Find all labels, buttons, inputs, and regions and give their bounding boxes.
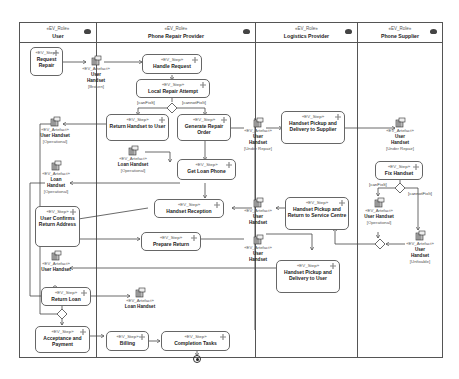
artefact-label: User Handset [248, 214, 268, 226]
step-glyph-icon [214, 202, 220, 208]
artefact-loan-handset-operational-user[interactable]: «EV_Artefact» Loan Handset [Operational] [36, 160, 76, 195]
step-label: Completion Tasks [162, 340, 229, 346]
artefact-icon [253, 197, 264, 208]
step-glyph-icon [80, 329, 86, 335]
artefact-state: [Operational] [34, 139, 76, 145]
artefact-label: User Handset [248, 134, 268, 146]
artefact-user-handset-user-lane[interactable]: «EV_Artefact» User Handset [36, 250, 76, 273]
step-label: User Confirms Return Address [36, 215, 79, 227]
artefact-state: [Under Repair] [380, 146, 420, 152]
artefact-user-handset-operational[interactable]: «EV_Artefact» User Handset [Operational] [34, 116, 76, 145]
artefact-icon [51, 160, 62, 171]
step-handset-pickup-delivery-to-user[interactable]: «EV_Step» Handset Pickup and Delivery to… [276, 260, 340, 293]
artefact-state: [Operational] [112, 168, 154, 174]
artefact-icon [50, 116, 61, 127]
artefact-user-handset-prepare-return[interactable]: «EV_Artefact» User Handset [240, 234, 276, 263]
artefact-label: Loan Handset [46, 177, 66, 189]
step-label: Return Handset to User [107, 123, 168, 129]
step-acceptance-and-payment[interactable]: «EV_Step» Acceptance and Payment [35, 326, 90, 353]
step-glyph-icon [53, 50, 59, 56]
step-glyph-icon [200, 82, 206, 88]
step-billing[interactable]: «EV_Step» Billing [106, 331, 149, 351]
step-label: Fix Handset [376, 170, 422, 176]
artefact-state: [Unfixable] [400, 259, 440, 265]
artefact-user-handset-unfixable[interactable]: «EV_Artefact» User Handset [Unfixable] [400, 230, 440, 265]
artefact-icon [135, 287, 146, 298]
step-label: Handset Pickup and Return to Service Cen… [286, 206, 348, 218]
step-glyph-icon [70, 209, 76, 215]
artefact-user-handset-under-repair-supplier[interactable]: «EV_Artefact» User Handset [Under Repair… [380, 117, 420, 152]
step-glyph-icon [191, 235, 197, 241]
artefact-label: User Handset [248, 251, 268, 263]
artefact-user-handset-broken[interactable]: «EV_Artefact» User Handset [Broken] [78, 55, 114, 90]
step-label: Prepare Return [142, 241, 200, 247]
step-handset-pickup-delivery-to-supplier[interactable]: «EV_Step» Handset Pickup and Delivery to… [281, 111, 345, 144]
step-glyph-icon [159, 117, 165, 123]
step-glyph-icon [220, 334, 226, 340]
artefact-state: [Under Repair] [240, 146, 276, 152]
step-request-repair[interactable]: «EV_Step» Request Repair [30, 47, 63, 76]
step-glyph-icon [221, 117, 227, 123]
step-handset-pickup-return-to-service-centre[interactable]: «EV_Step» Handset Pickup and Return to S… [285, 197, 349, 230]
step-glyph-icon [413, 164, 419, 170]
step-glyph-icon [226, 162, 232, 168]
artefact-icon [128, 145, 139, 156]
artefact-loan-handset-operational-prp[interactable]: «EV_Artefact» Loan Handset [Operational] [112, 145, 154, 174]
step-label: Return Loan [42, 296, 90, 302]
step-label: Acceptance and Payment [36, 335, 89, 347]
artefact-user-handset-under-repair-logistics[interactable]: «EV_Artefact» User Handset [Under Repair… [240, 117, 276, 152]
step-return-loan[interactable]: «EV_Step» Return Loan [41, 287, 91, 306]
step-handset-reception[interactable]: «EV_Step» Handset Reception [154, 199, 224, 218]
artefact-icon [253, 234, 264, 245]
step-glyph-icon [139, 334, 145, 340]
step-label: Request Repair [31, 56, 62, 68]
guard-cannot-fix: [cannotFixIt] [182, 100, 206, 105]
artefact-label: User Handset [410, 247, 430, 259]
step-completion-tasks[interactable]: «EV_Step» Completion Tasks [161, 331, 230, 351]
step-glyph-icon [81, 290, 87, 296]
step-glyph-icon [330, 263, 336, 269]
artefact-icon [91, 55, 102, 66]
step-prepare-return[interactable]: «EV_Step» Prepare Return [141, 232, 201, 251]
step-glyph-icon [335, 114, 341, 120]
guard-cannot-fix-supplier: [cannotFixIt] [408, 191, 432, 196]
step-generate-repair-order[interactable]: «EV_Step» Generate Repair Order [177, 114, 231, 141]
artefact-state: [Broken] [78, 84, 114, 90]
artefact-user-handset-reception[interactable]: «EV_Artefact» User Handset [240, 197, 276, 226]
final-node [193, 355, 201, 363]
step-label: Local Repair Attempt [137, 88, 209, 94]
step-label: Handset Reception [155, 208, 223, 214]
guard-can-fix: [canFixIt] [137, 100, 155, 105]
step-label: Handset Pickup and Delivery to User [277, 269, 339, 281]
step-label: Handset Pickup and Delivery to Supplier [282, 120, 344, 132]
step-label: Billing [107, 340, 148, 346]
artefact-icon [253, 117, 264, 128]
artefact-state: [Operational] [358, 220, 400, 226]
step-user-confirms-return-address[interactable]: «EV_Step» User Confirms Return Address [35, 206, 80, 247]
artefact-icon [374, 197, 385, 208]
artefact-state: [Operational] [36, 189, 76, 195]
artefact-label: User Handset [36, 267, 76, 273]
step-label: Generate Repair Order [178, 123, 230, 135]
artefact-label: Loan Handset [120, 304, 160, 310]
artefact-icon [415, 230, 426, 241]
step-label: Get Loan Phone [178, 168, 235, 174]
step-handle-request[interactable]: «EV_Step» Handle Request [142, 54, 202, 74]
step-local-repair-attempt[interactable]: «EV_Step» Local Repair Attempt [136, 79, 210, 98]
artefact-label: User Handset [86, 72, 106, 84]
step-fix-handset[interactable]: «EV_Step» Fix Handset [375, 161, 423, 180]
step-return-handset-to-user[interactable]: «EV_Step» Return Handset to User [106, 114, 169, 141]
artefact-icon [51, 250, 62, 261]
guard-can-fix-supplier: [canFixIt] [369, 182, 387, 187]
artefact-icon [395, 117, 406, 128]
step-label: Handle Request [143, 63, 201, 69]
artefact-user-handset-operational-supplier[interactable]: «EV_Artefact» User Handset [Operational] [358, 197, 400, 226]
step-get-loan-phone[interactable]: «EV_Step» Get Loan Phone [177, 159, 236, 180]
step-glyph-icon [339, 200, 345, 206]
artefact-label: User Handset [390, 134, 410, 146]
artefact-loan-handset-returned[interactable]: «EV_Artefact» Loan Handset [120, 287, 160, 310]
step-glyph-icon [192, 57, 198, 63]
